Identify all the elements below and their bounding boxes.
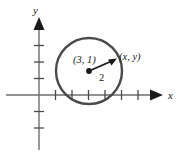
circle-diagram-figure: y x (3, 1) 2 (x, y) [0, 0, 182, 162]
y-axis-label: y [32, 4, 38, 16]
x-axis-arrowhead [150, 90, 163, 101]
coordinate-plane-svg: y x (3, 1) 2 (x, y) [0, 0, 182, 162]
center-point-dot [86, 68, 92, 74]
circle-point-label: (x, y) [119, 51, 141, 63]
axes-group [6, 17, 163, 150]
y-axis-arrowhead [34, 17, 45, 30]
circle-radius-label: 2 [99, 72, 104, 83]
circle-center-label: (3, 1) [73, 54, 96, 66]
x-axis-label: x [167, 89, 173, 101]
